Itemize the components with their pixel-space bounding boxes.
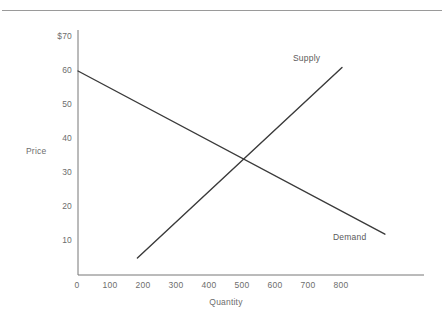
y-tick-label-20: 20 (40, 201, 72, 211)
demand-curve-label: Demand (333, 232, 366, 242)
y-axis-title: Price (26, 146, 46, 156)
y-tick-label-40: 40 (40, 133, 72, 143)
supply-demand-chart: $70 60 50 40 30 20 10 0 100 200 300 400 … (0, 0, 444, 329)
x-axis-title: Quantity (203, 297, 249, 307)
x-tick-label-800: 800 (322, 280, 360, 290)
chart-page: $70 60 50 40 30 20 10 0 100 200 300 400 … (0, 0, 444, 329)
y-tick-label-30: 30 (40, 167, 72, 177)
supply-curve (137, 68, 342, 258)
supply-curve-label: Supply (293, 53, 320, 63)
y-tick-label-70: $70 (40, 31, 72, 41)
demand-curve (78, 71, 385, 234)
y-tick-label-10: 10 (40, 235, 72, 245)
y-tick-label-60: 60 (40, 65, 72, 75)
y-tick-label-50: 50 (40, 99, 72, 109)
